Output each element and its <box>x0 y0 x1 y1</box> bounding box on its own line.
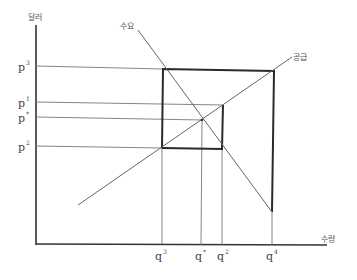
p3-guide-line <box>36 66 163 69</box>
svg-text:3: 3 <box>26 59 30 66</box>
svg-text:2: 2 <box>225 248 229 255</box>
supply-curve <box>78 57 292 205</box>
demand-label: 수요 <box>120 22 134 31</box>
svg-text:1: 1 <box>26 95 30 102</box>
svg-text:q: q <box>195 250 202 263</box>
svg-text:q: q <box>217 250 224 263</box>
equilibrium-point <box>201 119 204 122</box>
svg-text:p: p <box>18 112 25 125</box>
supply-demand-diagram: 달러 수량 수요 공급 p 3 p 1 p * p 2 q 3 q * <box>0 0 357 280</box>
svg-text:3: 3 <box>163 248 167 255</box>
p-star-label: p * <box>18 110 29 125</box>
x-axis-label: 수량 <box>321 234 336 244</box>
svg-text:*: * <box>26 110 29 117</box>
x-axis <box>36 244 327 245</box>
q2-label: q 2 <box>217 248 229 263</box>
q-star-label: q * <box>195 248 206 263</box>
svg-text:p: p <box>18 141 25 154</box>
demand-curve <box>138 30 272 212</box>
p3-label: p 3 <box>18 59 30 74</box>
svg-text:q: q <box>155 250 162 263</box>
p1-label: p 1 <box>18 95 30 110</box>
p2-label: p 2 <box>18 139 30 154</box>
svg-text:2: 2 <box>26 139 30 146</box>
supply-label: 공급 <box>293 53 307 62</box>
q4-label: q 4 <box>266 248 278 263</box>
svg-text:*: * <box>203 248 206 255</box>
svg-text:4: 4 <box>274 248 278 255</box>
svg-text:p: p <box>18 61 25 74</box>
outer-box <box>162 69 274 212</box>
q3-label: q 3 <box>155 248 167 263</box>
p1-guide-line <box>36 102 223 105</box>
p-star-guide-line <box>36 117 203 120</box>
y-axis-label: 달러 <box>28 13 42 22</box>
svg-text:p: p <box>18 97 25 110</box>
q-star-guide-line <box>201 120 202 245</box>
p2-guide-line <box>36 146 162 148</box>
svg-text:q: q <box>266 250 273 263</box>
